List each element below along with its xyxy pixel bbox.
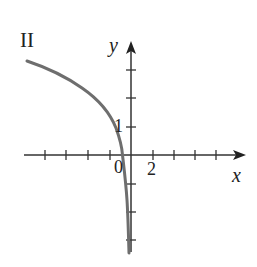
origin-label: 0 — [114, 157, 123, 178]
panel-label: II — [20, 28, 34, 53]
x-axis-label: x — [232, 164, 241, 187]
y-tick-label-1: 1 — [114, 116, 123, 137]
y-axis-label: y — [109, 34, 118, 57]
x-tick-label-2: 2 — [147, 159, 156, 180]
chart-canvas — [0, 0, 257, 267]
